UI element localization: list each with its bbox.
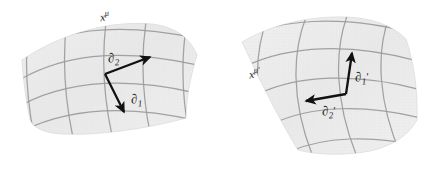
coordinate-chart-figure: xμ ∂2 ∂1 xμ′ ∂1′ ∂2′ xyxy=(0,0,435,170)
right-coordinate-patch xyxy=(236,4,435,164)
figure-canvas xyxy=(0,0,435,170)
basis-label-partial-2: ∂2 xyxy=(107,51,119,69)
partial-index: 2 xyxy=(114,57,119,67)
basis-label-partial-1: ∂1 xyxy=(130,92,142,110)
chart-label-x-mu: xμ xyxy=(99,9,110,23)
basis-label-partial-2-prime: ∂2′ xyxy=(321,103,336,121)
chart-label-x-mu-prime: xμ′ xyxy=(248,66,261,81)
basis-label-partial-1-prime: ∂1′ xyxy=(354,69,369,87)
left-patch-texture xyxy=(22,23,197,134)
right-patch-texture xyxy=(242,17,417,154)
left-coordinate-patch xyxy=(12,8,210,148)
partial-index: 1 xyxy=(137,98,142,108)
